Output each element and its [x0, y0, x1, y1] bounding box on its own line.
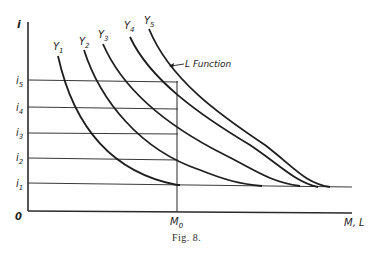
y-axis-label: i [17, 18, 21, 31]
tick-i1: i1 [16, 178, 23, 192]
x-axis-label: M, L [344, 217, 365, 228]
i1-line [28, 183, 352, 187]
i2-line [28, 158, 178, 160]
label-y1: Y1 [53, 41, 64, 55]
curve-y1 [58, 56, 180, 185]
tick-i4: i4 [16, 102, 23, 116]
i5-line [28, 80, 178, 82]
x-axis [28, 211, 352, 213]
tick-i5: i5 [16, 75, 24, 89]
i4-line [28, 107, 178, 109]
tick-i2: i2 [16, 152, 24, 166]
label-y3: Y3 [98, 29, 109, 43]
tick-m0: M0 [170, 216, 184, 230]
curve-y2 [84, 50, 262, 186]
origin-label: 0 [15, 211, 22, 222]
tick-i3: i3 [16, 127, 23, 141]
label-y2: Y2 [79, 36, 90, 50]
i3-line [28, 133, 178, 134]
figure-8-chart: Y1 Y2 Y3 Y4 Y5 L Function i i5 i4 i3 i2 … [0, 0, 376, 257]
label-y5: Y5 [144, 15, 155, 29]
label-y4: Y4 [124, 20, 135, 34]
l-function-label: L Function [185, 59, 232, 69]
figure-caption: Fig. 8. [172, 232, 201, 243]
